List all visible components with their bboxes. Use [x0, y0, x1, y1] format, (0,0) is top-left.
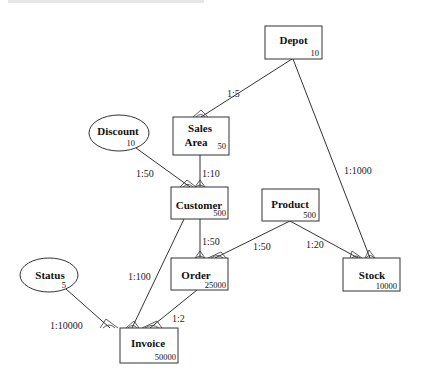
entity-name: Product	[271, 198, 309, 210]
entity-sales-area[interactable]: Sales Area 50	[173, 117, 229, 155]
entity-name: Invoice	[131, 337, 165, 349]
label-customer-invoice: 1:100	[128, 271, 151, 282]
edge-product-stock	[290, 221, 358, 258]
label-product-stock: 1:20	[306, 239, 324, 250]
entity-count: 50000	[155, 352, 176, 362]
attribute-count: 10	[127, 138, 136, 148]
label-product-order: 1:50	[253, 241, 271, 252]
entity-count: 500	[213, 208, 226, 218]
entity-name: Depot	[279, 34, 307, 46]
label-customer-order: 1:50	[202, 236, 220, 247]
label-status-invoice: 1:10000	[50, 320, 83, 331]
attribute-count: 5	[62, 280, 66, 290]
entity-invoice[interactable]: Invoice 50000	[120, 328, 178, 363]
entity-count: 10000	[376, 281, 397, 291]
attribute-status[interactable]: Status 5	[20, 258, 78, 292]
entity-depot[interactable]: Depot 10	[265, 26, 322, 59]
edge-depot-sales-area	[201, 59, 292, 117]
label-order-invoice: 1:2	[172, 313, 185, 324]
entity-name-line1: Sales	[188, 122, 213, 134]
entity-count: 50	[218, 141, 227, 151]
label-sales-area-customer: 1:10	[202, 168, 220, 179]
entity-name: Stock	[359, 269, 386, 281]
entity-customer[interactable]: Customer 500	[171, 187, 228, 219]
entity-count: 25000	[205, 280, 226, 290]
entity-order[interactable]: Order 25000	[171, 258, 228, 290]
entity-count: 10	[311, 48, 320, 58]
attribute-name: Discount	[97, 125, 139, 137]
entity-stock[interactable]: Stock 10000	[343, 258, 400, 291]
edge-product-order	[215, 221, 290, 258]
attribute-discount[interactable]: Discount 10	[89, 115, 149, 151]
label-depot-stock: 1:1000	[344, 165, 372, 176]
label-discount-customer: 1:50	[136, 168, 154, 179]
edge-depot-stock	[293, 59, 370, 258]
entity-count: 500	[303, 210, 316, 220]
label-depot-sales-area: 1:5	[227, 88, 240, 99]
er-diagram: 1:5 1:1000 1:50 1:10 1:50 1:50 1:20 1:10…	[0, 0, 422, 386]
entity-product[interactable]: Product 500	[262, 189, 319, 221]
entity-name-line2: Area	[184, 136, 208, 148]
